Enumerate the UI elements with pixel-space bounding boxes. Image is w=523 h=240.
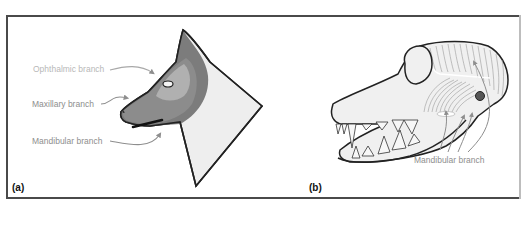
mandibular-branch-label-a: Mandibular branch bbox=[32, 136, 102, 146]
dog-eye bbox=[163, 81, 173, 87]
maxillary-branch-label: Maxillary branch bbox=[32, 99, 94, 109]
ear-canal bbox=[476, 92, 485, 101]
skull-diagram bbox=[331, 42, 508, 163]
ophthalmic-branch-label: Ophthalmic branch bbox=[33, 64, 104, 74]
dog-head-diagram bbox=[101, 30, 262, 186]
ophthalmic-arrow bbox=[110, 67, 153, 73]
mandibular-arrow-a bbox=[110, 134, 160, 145]
panel-label-a: (a) bbox=[12, 182, 24, 193]
mandibular-branch-label-b: Mandibular branch bbox=[414, 155, 484, 165]
panel-label-b: (b) bbox=[309, 182, 322, 193]
maxillary-arrow bbox=[101, 97, 127, 104]
